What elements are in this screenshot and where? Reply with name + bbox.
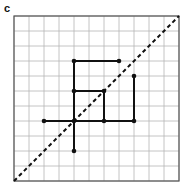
node-point bbox=[132, 119, 137, 124]
node-point bbox=[72, 89, 77, 94]
node-point bbox=[102, 89, 107, 94]
grid-diagram bbox=[0, 0, 186, 183]
node-point bbox=[72, 119, 77, 124]
node-point bbox=[102, 119, 107, 124]
node-point bbox=[72, 59, 77, 64]
node-point bbox=[117, 59, 122, 64]
node-point bbox=[132, 74, 137, 79]
node-point bbox=[42, 119, 47, 124]
node-point bbox=[72, 149, 77, 154]
diagonal-line bbox=[14, 16, 179, 181]
